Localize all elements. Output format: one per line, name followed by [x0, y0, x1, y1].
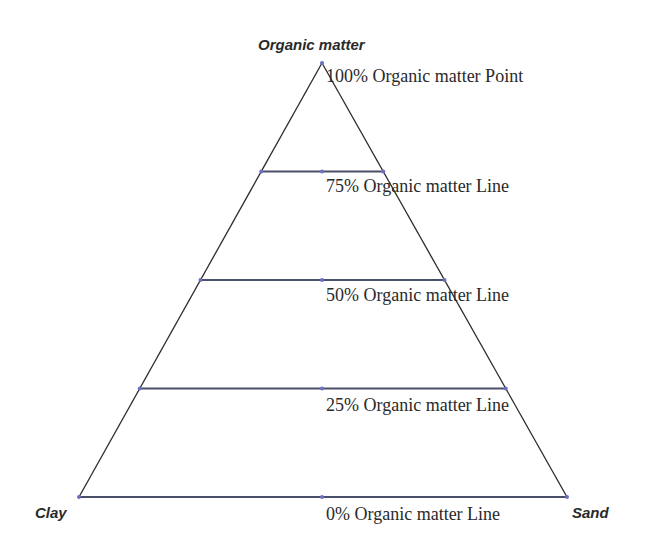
vertex-label-organic-matter: Organic matter — [258, 36, 366, 53]
level-markers — [77, 61, 569, 499]
level-marker — [320, 170, 324, 174]
level-marker — [381, 170, 385, 174]
level-marker — [138, 387, 142, 391]
level-marker — [565, 495, 569, 499]
level-marker — [320, 495, 324, 499]
level-label-25: 25% Organic matter Line — [326, 395, 509, 415]
level-label-50: 50% Organic matter Line — [326, 285, 509, 305]
level-label-75: 75% Organic matter Line — [326, 176, 509, 196]
vertex-label-sand: Sand — [572, 504, 610, 521]
apex-point-marker — [320, 61, 324, 65]
organic-matter-ternary-diagram: Organic matter Clay Sand 100% Organic ma… — [0, 0, 658, 560]
vertex-label-clay: Clay — [35, 504, 67, 521]
level-marker — [504, 387, 508, 391]
level-marker — [443, 278, 447, 282]
level-marker — [77, 495, 81, 499]
level-label-0: 0% Organic matter Line — [326, 504, 500, 524]
level-lines — [79, 172, 567, 498]
level-marker — [259, 170, 263, 174]
level-marker — [199, 278, 203, 282]
level-marker — [320, 387, 324, 391]
level-marker — [320, 278, 324, 282]
level-label-100: 100% Organic matter Point — [326, 66, 523, 86]
